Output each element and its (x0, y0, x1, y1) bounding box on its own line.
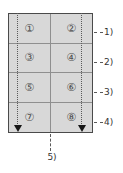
row-callout-label: 2) (104, 58, 113, 67)
row-callout-1: 1) (94, 26, 113, 39)
row-callout-label: 1) (104, 28, 113, 37)
leader-line (94, 62, 103, 63)
circled-number: ④ (66, 52, 76, 63)
row-callout-2: 2) (94, 56, 113, 69)
circled-number: ⑧ (66, 112, 76, 123)
circled-number: ⑦ (24, 112, 34, 123)
grid-cell: ③ (9, 44, 51, 74)
center-callout-label: 5) (43, 153, 61, 162)
row-callout-label: 3) (104, 88, 113, 97)
grid-cell: ② (51, 14, 93, 44)
circled-number: ① (24, 23, 34, 34)
leader-line (94, 92, 103, 93)
down-arrow-icon (14, 125, 22, 132)
leader-line (94, 32, 103, 33)
grid-cell: ④ (51, 44, 93, 74)
circled-number: ② (66, 23, 76, 34)
leader-line (94, 122, 103, 123)
row-callout-3: 3) (94, 86, 113, 99)
grid-cell: ① (9, 14, 51, 44)
row-callout-label: 4) (104, 118, 113, 127)
circled-number: ③ (24, 52, 34, 63)
diagram: ① ② ③ ④ ⑤ ⑥ ⑦ ⑧ 1) 2) 3) (0, 0, 123, 173)
grid-cell: ⑤ (9, 73, 51, 103)
row-callout-4: 4) (94, 116, 113, 129)
center-leader-line (50, 134, 51, 151)
grid-cell: ⑥ (51, 73, 93, 103)
circled-number: ⑤ (24, 82, 34, 93)
down-arrow-icon (78, 125, 86, 132)
circled-number: ⑥ (66, 82, 76, 93)
scan-line-right (81, 13, 82, 126)
scan-line-left (17, 13, 18, 126)
